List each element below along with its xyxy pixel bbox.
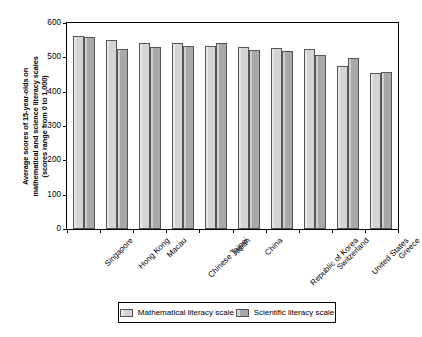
bar-scientific — [282, 51, 293, 229]
bar-scientific — [381, 72, 392, 229]
bar-group — [266, 23, 299, 229]
bar-scientific — [150, 47, 161, 229]
y-axis-tick-label: 100 — [21, 191, 67, 199]
bar-group — [232, 23, 265, 229]
y-axis-tick-label: 0 — [21, 225, 67, 233]
bar-group — [199, 23, 232, 229]
bar-mathematical — [106, 40, 117, 229]
x-axis-label: China — [263, 236, 284, 257]
bar-group — [365, 23, 398, 229]
bar-group — [332, 23, 365, 229]
bar-scientific — [216, 43, 227, 229]
chart-legend: Mathematical literacy scale Scientific l… — [118, 302, 336, 323]
bar-scientific — [84, 37, 95, 229]
legend-item-scientific: Scientific literacy scale — [236, 308, 334, 317]
bar-mathematical — [271, 48, 282, 229]
bar-mathematical — [337, 66, 348, 229]
bar-scientific — [348, 58, 359, 229]
bar-scientific — [183, 46, 194, 229]
y-axis-tick-label: 600 — [21, 19, 67, 27]
bar-scientific — [315, 55, 326, 229]
y-axis-tick-label: 200 — [21, 156, 67, 164]
bar-group — [166, 23, 199, 229]
plot-area: 0100200300400500600 — [66, 22, 399, 230]
y-axis-tick-label: 400 — [21, 88, 67, 96]
bar-mathematical — [73, 36, 84, 229]
x-axis-labels: SingaporeHong KongMacauChinese TaipeiJap… — [66, 232, 399, 294]
bar-mathematical — [238, 47, 249, 229]
legend-swatch-scientific — [236, 309, 249, 317]
x-axis-label: Singapore — [102, 236, 134, 268]
bar-group — [133, 23, 166, 229]
bar-mathematical — [139, 43, 150, 229]
bar-group — [299, 23, 332, 229]
y-axis-tick-label: 500 — [21, 53, 67, 61]
legend-label-mathematical: Mathematical literacy scale — [138, 308, 234, 317]
bar-mathematical — [205, 46, 216, 229]
x-axis-label: Republic of Korea — [309, 236, 360, 287]
legend-swatch-mathematical — [120, 309, 133, 317]
bar-mathematical — [304, 49, 315, 229]
bar-series-container — [67, 23, 398, 229]
legend-label-scientific: Scientific literacy scale — [254, 308, 334, 317]
x-axis-label: Japan — [230, 236, 252, 258]
bar-mathematical — [370, 73, 381, 229]
legend-item-mathematical: Mathematical literacy scale — [120, 308, 234, 317]
y-axis-tick-label: 300 — [21, 122, 67, 130]
bar-scientific — [249, 50, 260, 229]
bar-mathematical — [172, 43, 183, 229]
bar-scientific — [117, 49, 128, 229]
bar-group — [67, 23, 100, 229]
bar-group — [100, 23, 133, 229]
